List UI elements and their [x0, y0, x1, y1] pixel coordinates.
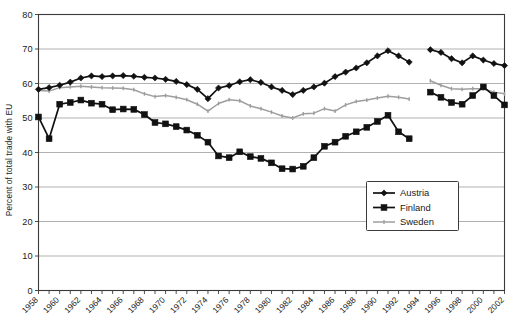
- data-point-marker: [480, 57, 486, 63]
- data-point-marker: [491, 93, 497, 99]
- x-tick-label: 1994: [401, 295, 421, 315]
- x-tick-label: 1982: [274, 295, 294, 315]
- x-tick-label: 1968: [126, 295, 146, 315]
- data-point-marker: [141, 74, 147, 80]
- data-point-marker: [88, 73, 94, 79]
- data-point-marker: [311, 155, 317, 161]
- data-point-marker: [110, 73, 116, 79]
- data-point-marker: [279, 166, 285, 172]
- x-tick-label: 1962: [62, 295, 82, 315]
- x-tick-label: 1990: [359, 295, 379, 315]
- data-point-marker: [427, 89, 433, 95]
- data-point-marker: [142, 112, 148, 118]
- data-point-marker: [491, 60, 497, 66]
- legend-label: Sweden: [400, 216, 434, 227]
- data-point-marker: [438, 94, 444, 100]
- data-series-layer: [35, 47, 507, 172]
- data-point-marker: [152, 120, 158, 126]
- x-tick-label: 1996: [422, 295, 442, 315]
- data-point-marker: [120, 72, 126, 78]
- data-point-marker: [501, 62, 507, 68]
- x-tick-label: 1960: [41, 295, 61, 315]
- data-point-marker: [99, 74, 105, 80]
- x-tick-label: 1998: [443, 295, 463, 315]
- trade-share-line-chart: Percent of total trade with EU 010203040…: [0, 0, 511, 334]
- data-point-marker: [205, 139, 211, 145]
- data-point-marker: [480, 84, 486, 90]
- data-point-marker: [247, 77, 253, 83]
- data-point-marker: [502, 102, 508, 108]
- data-point-marker: [216, 153, 222, 159]
- data-point-marker: [184, 81, 190, 87]
- x-tick-label: 1986: [316, 295, 336, 315]
- y-axis-title-text: Percent of total trade with EU: [5, 104, 14, 217]
- data-point-marker: [247, 154, 253, 160]
- data-point-marker: [226, 155, 232, 161]
- data-point-marker: [163, 121, 169, 127]
- data-point-marker: [89, 100, 95, 106]
- data-point-marker: [353, 65, 359, 71]
- data-point-marker: [290, 91, 296, 97]
- data-point-marker: [343, 133, 349, 139]
- data-point-marker: [470, 93, 476, 99]
- data-point-marker: [300, 87, 306, 93]
- data-point-marker: [353, 129, 359, 135]
- data-point-marker: [131, 73, 137, 79]
- x-tick-label: 2002: [486, 295, 506, 315]
- data-point-marker: [110, 107, 116, 113]
- x-tick-label: 1964: [83, 295, 103, 315]
- y-tick-label: 40: [22, 148, 32, 158]
- data-point-marker: [36, 114, 42, 120]
- y-tick-label: 10: [22, 251, 32, 261]
- data-point-marker: [427, 47, 433, 53]
- data-point-marker: [364, 124, 370, 130]
- data-point-marker: [99, 101, 105, 107]
- data-point-marker: [322, 143, 328, 149]
- y-tick-label: 70: [22, 44, 32, 54]
- data-point-marker: [300, 163, 306, 169]
- y-tick-label: 20: [22, 217, 32, 227]
- data-point-marker: [237, 149, 243, 155]
- data-point-marker: [279, 87, 285, 93]
- data-point-marker: [194, 132, 200, 138]
- y-tick-label: 0: [27, 286, 32, 296]
- data-point-marker: [258, 79, 264, 85]
- data-point-marker: [311, 84, 317, 90]
- data-point-marker: [332, 139, 338, 145]
- data-point-marker: [152, 75, 158, 81]
- y-tick-label: 30: [22, 182, 32, 192]
- x-tick-label: 1958: [20, 295, 40, 315]
- data-point-marker: [78, 97, 84, 103]
- legend-label: Finland: [400, 202, 431, 213]
- x-tick-label: 1972: [168, 295, 188, 315]
- x-tick-label: 1978: [231, 295, 251, 315]
- x-tick-label: 1970: [147, 295, 167, 315]
- data-point-marker: [268, 84, 274, 90]
- data-point-marker: [78, 75, 84, 81]
- data-point-marker: [184, 127, 190, 133]
- data-point-marker: [46, 136, 52, 142]
- data-point-marker: [396, 129, 402, 135]
- y-tick-label: 50: [22, 113, 32, 123]
- data-point-marker: [269, 160, 275, 166]
- data-point-marker: [258, 155, 264, 161]
- series-austria: [35, 47, 507, 102]
- data-point-marker: [120, 106, 126, 112]
- data-point-marker: [459, 101, 465, 107]
- x-tick-label: 1992: [380, 295, 400, 315]
- y-axis-title: Percent of total trade with EU: [5, 104, 14, 217]
- data-point-marker: [35, 86, 41, 92]
- y-tick-label: 60: [22, 79, 32, 89]
- x-tick-label: 1976: [210, 295, 230, 315]
- x-tick-label: 1966: [104, 295, 124, 315]
- data-point-marker: [173, 124, 179, 130]
- data-point-marker: [67, 100, 73, 106]
- data-point-marker: [290, 166, 296, 172]
- data-point-marker: [385, 112, 391, 118]
- data-point-marker: [381, 205, 387, 211]
- x-tick-label: 1980: [253, 295, 273, 315]
- x-tick-label: 1984: [295, 295, 315, 315]
- data-point-marker: [57, 101, 63, 107]
- x-tick-label: 1974: [189, 295, 209, 315]
- data-point-marker: [343, 69, 349, 75]
